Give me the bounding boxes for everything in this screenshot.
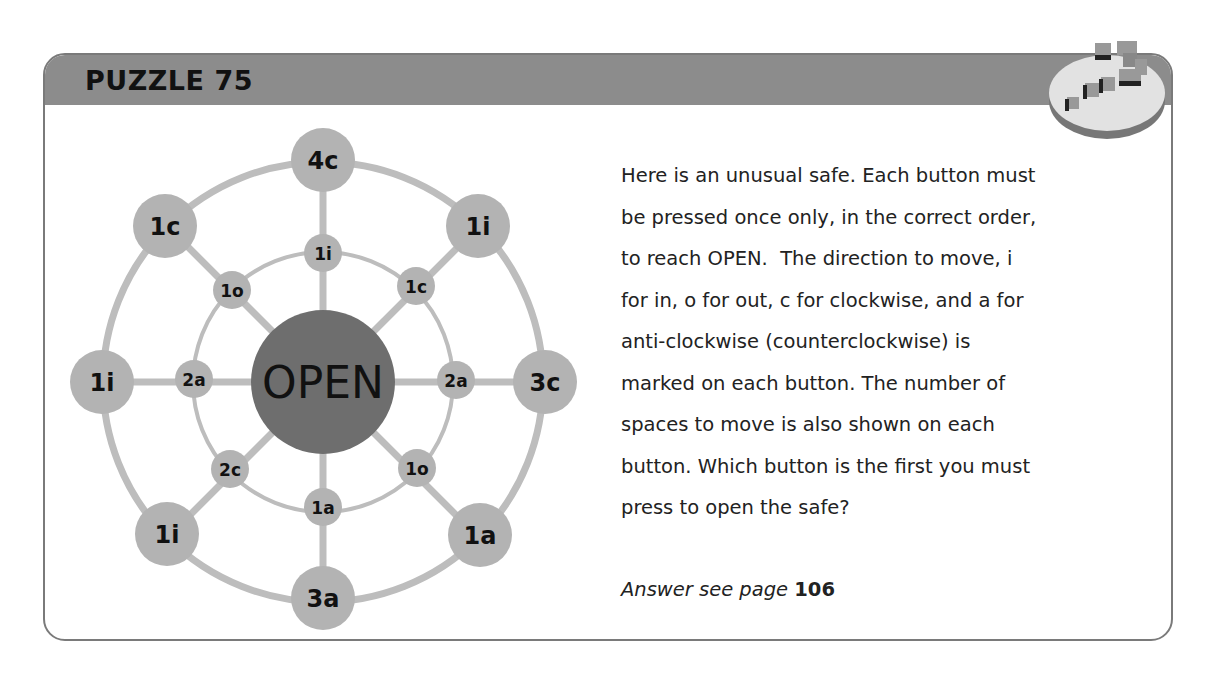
svg-text:1c: 1c: [405, 277, 427, 297]
answer-lead: Answer see page: [621, 578, 794, 601]
svg-text:1i: 1i: [314, 244, 332, 264]
description-line: be pressed once only, in the correct ord…: [621, 197, 1161, 239]
svg-text:2a: 2a: [182, 370, 205, 390]
inner-button-n[interactable]: 1i: [304, 234, 342, 272]
outer-button-e[interactable]: 3c: [513, 350, 577, 414]
svg-text:2c: 2c: [219, 460, 241, 480]
description-line: Here is an unusual safe. Each button mus…: [621, 155, 1161, 197]
outer-button-nw[interactable]: 1c: [133, 194, 197, 258]
outer-button-n[interactable]: 4c: [291, 128, 355, 192]
question-mark-icon: [1035, 35, 1175, 145]
description-line: for in, o for out, c for clockwise, and …: [621, 280, 1161, 322]
description-line: button. Which button is the first you mu…: [621, 446, 1161, 488]
outer-button-ne[interactable]: 1i: [446, 194, 510, 258]
svg-text:4c: 4c: [308, 147, 339, 175]
outer-button-se[interactable]: 1a: [448, 503, 512, 567]
svg-text:1o: 1o: [220, 281, 244, 301]
inner-button-ne[interactable]: 1c: [397, 267, 435, 305]
svg-text:OPEN: OPEN: [262, 357, 384, 408]
svg-text:1c: 1c: [150, 213, 181, 241]
inner-button-s[interactable]: 1a: [304, 488, 342, 526]
inner-button-nw[interactable]: 1o: [213, 271, 251, 309]
svg-text:1i: 1i: [466, 213, 491, 241]
inner-button-e[interactable]: 2a: [437, 361, 475, 399]
answer-reference: Answer see page 106: [621, 578, 835, 601]
svg-text:1a: 1a: [311, 498, 334, 518]
inner-button-sw[interactable]: 2c: [211, 450, 249, 488]
outer-button-s[interactable]: 3a: [291, 566, 355, 630]
puzzle-title: PUZZLE 75: [85, 65, 253, 96]
inner-button-se[interactable]: 1o: [398, 449, 436, 487]
svg-text:1o: 1o: [405, 459, 429, 479]
card-header: PUZZLE 75: [45, 55, 1171, 105]
description-line: anti-clockwise (counterclockwise) is: [621, 321, 1161, 363]
description-line: spaces to move is also shown on each: [621, 404, 1161, 446]
center-open-button[interactable]: OPEN: [251, 310, 395, 454]
description-line: press to open the safe?: [621, 487, 1161, 529]
svg-text:1a: 1a: [464, 522, 497, 550]
inner-button-w[interactable]: 2a: [175, 360, 213, 398]
description-line: marked on each button. The number of: [621, 363, 1161, 405]
svg-text:3c: 3c: [530, 369, 561, 397]
svg-text:2a: 2a: [444, 371, 467, 391]
puzzle-description: Here is an unusual safe. Each button mus…: [621, 155, 1161, 529]
outer-button-w[interactable]: 1i: [70, 350, 134, 414]
svg-text:1i: 1i: [155, 521, 180, 549]
outer-button-sw[interactable]: 1i: [135, 502, 199, 566]
description-line: to reach OPEN. The direction to move, i: [621, 238, 1161, 280]
svg-text:1i: 1i: [90, 369, 115, 397]
answer-page: 106: [794, 578, 835, 601]
safe-diagram: OPEN 4c 1i 3c 1a 3a 1i 1i 1c 1i 1c 2a 1o…: [70, 120, 590, 640]
svg-text:3a: 3a: [307, 585, 340, 613]
